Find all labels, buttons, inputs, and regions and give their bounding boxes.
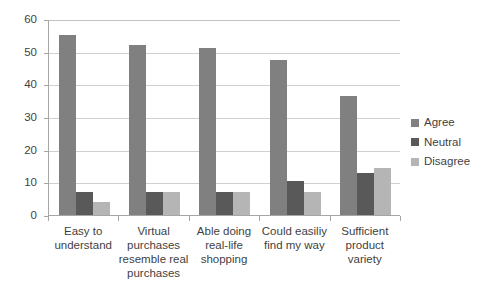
x-axis-tick-mark	[189, 216, 190, 221]
category-label-line: product variety	[330, 238, 400, 266]
legend-swatch-icon	[411, 119, 419, 127]
bar-group-bars	[331, 20, 401, 215]
x-axis-tick-mark	[118, 216, 119, 221]
x-axis-tick-mark	[400, 216, 401, 221]
category-label-line: resemble real	[118, 252, 188, 266]
category-label-line: purchases	[118, 238, 188, 252]
bar-chart: 6050403020100 Easy tounderstandVirtualpu…	[0, 0, 481, 296]
y-axis-tick-label: 10	[0, 177, 44, 189]
category-label-line: Sufficient	[330, 224, 400, 238]
category-label-line: Virtual	[118, 224, 188, 238]
legend-item-label: Neutral	[424, 137, 461, 149]
bar-disagree	[93, 202, 110, 215]
bar-disagree	[233, 192, 250, 215]
y-axis-tick-label: 30	[0, 112, 44, 124]
category-label-line: understand	[48, 238, 118, 252]
legend-swatch-icon	[411, 158, 419, 166]
y-axis-tick-label: 60	[0, 14, 44, 26]
bar-neutral	[146, 192, 163, 215]
category-label-line: find my way	[259, 238, 329, 252]
bar-group	[331, 20, 401, 215]
legend-item-agree[interactable]: Agree	[411, 117, 470, 129]
bar-disagree	[163, 192, 180, 215]
legend-item-label: Disagree	[424, 156, 470, 168]
bar-group	[119, 20, 189, 215]
bar-neutral	[76, 192, 93, 215]
plot-area	[48, 20, 400, 216]
bar-agree	[340, 96, 357, 215]
x-axis-tick-mark	[48, 216, 49, 221]
category-label-line: Easy to	[48, 224, 118, 238]
x-axis-category-label: Virtualpurchasesresemble realpurchases	[118, 224, 188, 280]
legend-item-label: Agree	[424, 117, 455, 129]
x-axis-category-label: Sufficientproduct variety	[330, 224, 400, 266]
x-axis-category-label: Could easiliyfind my way	[259, 224, 329, 252]
bar-group-bars	[119, 20, 189, 215]
category-label-line: Could easiliy	[259, 224, 329, 238]
category-label-line: Able doing	[189, 224, 259, 238]
bar-group	[260, 20, 330, 215]
bar-agree	[199, 48, 216, 215]
category-label-line: shopping	[189, 252, 259, 266]
bar-agree	[270, 60, 287, 215]
bar-disagree	[374, 168, 391, 215]
bar-group-bars	[49, 20, 119, 215]
bar-disagree	[304, 192, 321, 215]
legend-item-neutral[interactable]: Neutral	[411, 137, 470, 149]
y-axis-tick-label: 50	[0, 47, 44, 59]
x-axis-tick-mark	[259, 216, 260, 221]
bar-group-bars	[260, 20, 330, 215]
chart-canvas: 6050403020100 Easy tounderstandVirtualpu…	[0, 0, 481, 296]
x-axis-tick-mark	[330, 216, 331, 221]
bar-group	[190, 20, 260, 215]
bar-agree	[59, 35, 76, 215]
chart-legend: AgreeNeutralDisagree	[411, 117, 470, 168]
x-axis-category-label: Able doingreal-lifeshopping	[189, 224, 259, 266]
legend-item-disagree[interactable]: Disagree	[411, 156, 470, 168]
category-label-line: real-life	[189, 238, 259, 252]
category-label-line: purchases	[118, 266, 188, 280]
y-axis-tick-label: 0	[0, 210, 44, 222]
bar-neutral	[287, 181, 304, 215]
legend-swatch-icon	[411, 138, 419, 146]
x-axis-category-label: Easy tounderstand	[48, 224, 118, 252]
bar-neutral	[357, 173, 374, 215]
bar-agree	[129, 45, 146, 215]
bar-group-bars	[190, 20, 260, 215]
y-axis-tick-label: 20	[0, 145, 44, 157]
bar-neutral	[216, 192, 233, 215]
bar-group	[49, 20, 119, 215]
y-axis-tick-label: 40	[0, 79, 44, 91]
